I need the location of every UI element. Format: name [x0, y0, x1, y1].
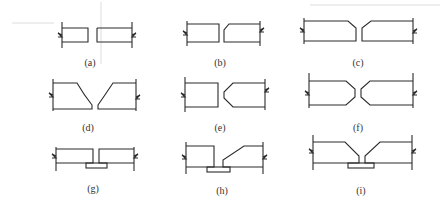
diagram-panel-b: (b)	[150, 0, 300, 68]
panel-caption: (g)	[78, 183, 108, 194]
diagram-panel-c: (c)	[296, 0, 446, 68]
diagram-panel-d: (d)	[0, 65, 150, 135]
square-butt-backing-strip-icon	[0, 135, 150, 203]
panel-caption: (i)	[346, 185, 376, 196]
panel-caption: (h)	[207, 185, 237, 196]
diagram-panel-a: (a)	[0, 0, 150, 68]
diagram-panel-h: (h)	[150, 135, 300, 203]
diagram-panel-g: (g)	[0, 135, 150, 203]
diagram-panel-f: (f)	[296, 65, 446, 135]
panel-caption: (f)	[343, 122, 373, 133]
panel-caption: (e)	[205, 122, 235, 133]
diagram-panel-i: (i)	[296, 135, 446, 203]
panel-caption: (d)	[73, 122, 103, 133]
diagram-panel-e: (e)	[150, 65, 300, 135]
